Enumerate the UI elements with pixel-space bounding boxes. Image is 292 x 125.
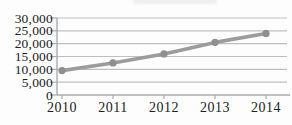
data-point-marker (160, 50, 167, 57)
x-axis-tick-label: 2014 (240, 100, 292, 116)
y-axis-tick-label: 20,000 (7, 36, 53, 51)
x-axis-tick-label: 2011 (87, 100, 139, 116)
data-point-marker (211, 39, 218, 46)
x-axis-tick-label: 2010 (36, 100, 88, 116)
y-axis-tick-label: 25,000 (7, 23, 53, 38)
data-point-marker (109, 59, 116, 66)
data-point-marker (58, 67, 65, 74)
y-axis-tick-label: 30,000 (7, 11, 53, 26)
data-point-marker (262, 30, 269, 37)
x-axis-tick-label: 2012 (138, 100, 190, 116)
y-axis-tick-label: 15,000 (7, 49, 53, 64)
x-axis-tick-label: 2013 (189, 100, 241, 116)
y-axis-tick-label: 5,000 (7, 75, 53, 90)
y-axis-tick-label: 10,000 (7, 62, 53, 77)
line-chart-figure: 05,00010,00015,00020,00025,00030,0002010… (0, 0, 292, 125)
